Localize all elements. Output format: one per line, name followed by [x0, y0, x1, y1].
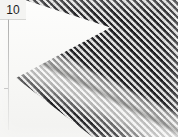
sample-number-chip-edge [0, 19, 26, 20]
sample-number-label: 10 [6, 4, 19, 16]
vertical-rule-tick [4, 88, 8, 89]
vertical-rule-icon [8, 10, 9, 130]
sample-number-chip: 10 [0, 0, 26, 19]
image-canvas: 10 [0, 0, 178, 137]
